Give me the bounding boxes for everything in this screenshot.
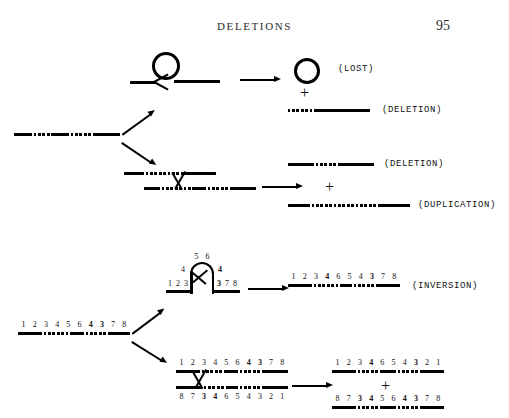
loop-left-arm: [130, 81, 156, 84]
seq-digit: 1: [288, 272, 299, 281]
seq-digit: 5: [232, 392, 243, 401]
seq-digit: 3: [366, 272, 377, 281]
seq-digit: 7: [187, 392, 198, 401]
seq-digit: 8: [119, 320, 130, 329]
hairpin-crossover-x-icon: [192, 271, 210, 283]
label-deletion-2: (DELETION): [384, 159, 444, 169]
pairing-bottom-numbers: 8 7 3 4 6 5 4 3 2 1: [176, 392, 288, 401]
seq-digit: 1: [277, 392, 288, 401]
seq-digit: 3: [254, 358, 265, 367]
seq-digit: 3: [182, 279, 190, 288]
seq-digit: 8: [433, 394, 444, 403]
seq-digit: 4: [210, 358, 221, 367]
hairpin-right-arm-number: 4: [216, 265, 224, 274]
label-lost: (LOST): [338, 64, 374, 74]
reaction-arrow-2: [262, 183, 306, 191]
seq-digit: 1: [166, 279, 174, 288]
seq-digit: 4: [399, 394, 410, 403]
product-duplication-strand: [288, 204, 410, 207]
product-lost-circle: [294, 58, 320, 84]
panel-unequal-crossover: [124, 172, 274, 202]
label-inversion: (INVERSION): [412, 281, 478, 291]
branch-arrow-down-2: [130, 339, 169, 367]
product-deletion-strand-2: [288, 163, 374, 166]
branch-arrow-up: [120, 107, 158, 137]
seq-digit: 6: [377, 358, 388, 367]
seq-digit: 6: [388, 394, 399, 403]
seq-digit: 3: [254, 392, 265, 401]
loop-crossover-x-icon: [154, 77, 168, 86]
seq-digit: 4: [216, 265, 224, 274]
seq-digit: 3: [198, 392, 209, 401]
panel-looping-out: [130, 52, 250, 100]
seq-digit: 7: [422, 394, 433, 403]
seq-digit: 3: [96, 320, 107, 329]
branch-arrow-up-2: [130, 305, 168, 336]
product-top-numbers: 1 2 3 4 6 5 4 3 2 1: [332, 358, 444, 367]
crossover-upper-strand: [124, 172, 216, 175]
plus-sign-3: +: [381, 378, 390, 394]
seq-digit: 3: [310, 272, 321, 281]
seq-digit: 7: [343, 394, 354, 403]
seq-digit: 4: [52, 320, 63, 329]
seq-digit: 4: [366, 358, 377, 367]
reaction-arrow-1: [240, 76, 284, 84]
product-deletion-strand-1: [286, 109, 370, 112]
seq-digit: 8: [176, 392, 187, 401]
hairpin-right-flank: [212, 290, 240, 293]
product-inversion-strand: [288, 284, 400, 287]
seq-digit: 4: [179, 265, 187, 274]
seq-digit: 6: [202, 252, 213, 261]
branch-arrow-down: [120, 140, 159, 169]
seq-digit: 6: [333, 272, 344, 281]
seq-digit: 4: [243, 358, 254, 367]
seq-digit: 3: [40, 320, 51, 329]
seq-digit: 6: [74, 320, 85, 329]
label-duplication: (DUPLICATION): [418, 200, 496, 210]
seq-digit: 7: [266, 358, 277, 367]
seq-digit: 2: [343, 358, 354, 367]
seq-digit: 6: [232, 358, 243, 367]
crossover-x-icon: [172, 172, 188, 190]
seq-digit: 8: [332, 394, 343, 403]
crossover-lower-strand: [144, 187, 256, 190]
seq-digit: 4: [210, 392, 221, 401]
seq-digit: 3: [354, 358, 365, 367]
seq-digit: 4: [322, 272, 333, 281]
figure-page: DELETIONS 95: [0, 0, 509, 418]
hairpin-top-numbers: 5 6: [191, 252, 213, 261]
seq-digit: 7: [108, 320, 119, 329]
product-bottom-strand: [332, 406, 444, 409]
seq-digit: 5: [388, 358, 399, 367]
hairpin-base-left-numbers: 1 2 3: [166, 279, 190, 288]
seq-digit: 2: [422, 358, 433, 367]
plus-sign-2: +: [325, 179, 334, 195]
reaction-arrow-3: [248, 285, 292, 293]
pairing-top-numbers: 1 2 3 4 5 6 4 3 7 8: [176, 358, 288, 367]
seq-digit: 3: [215, 279, 223, 288]
seq-digit: 3: [354, 394, 365, 403]
parent-strand-lower-numbers: 1 2 3 4 5 6 4 3 7 8: [18, 320, 130, 329]
seq-digit: 5: [344, 272, 355, 281]
label-deletion-1: (DELETION): [382, 105, 442, 115]
seq-digit: 2: [187, 358, 198, 367]
seq-digit: 5: [63, 320, 74, 329]
page-number: 95: [420, 18, 466, 34]
seq-digit: 8: [277, 358, 288, 367]
inversion-product-numbers: 1 2 3 4 6 5 4 3 7 8: [288, 272, 400, 281]
seq-digit: 2: [29, 320, 40, 329]
seq-digit: 1: [433, 358, 444, 367]
pairing-crossover-x-icon: [192, 370, 208, 388]
hairpin-left-arm-number: 4: [179, 265, 187, 274]
seq-digit: 3: [410, 358, 421, 367]
reaction-arrow-4: [292, 382, 336, 390]
hairpin-base-right-numbers: 3 7 8: [215, 279, 239, 288]
product-top-strand: [332, 370, 444, 373]
seq-digit: 7: [223, 279, 231, 288]
seq-digit: 7: [378, 272, 389, 281]
seq-digit: 4: [85, 320, 96, 329]
seq-digit: 1: [18, 320, 29, 329]
seq-digit: 4: [399, 358, 410, 367]
seq-digit: 8: [231, 279, 239, 288]
seq-digit: 4: [355, 272, 366, 281]
